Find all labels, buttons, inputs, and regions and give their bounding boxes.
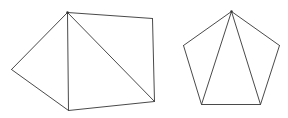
edge-top-bottom-left xyxy=(202,12,232,105)
edge-top-right xyxy=(232,12,280,46)
edge-left-top xyxy=(12,13,68,70)
edge-bottom-left xyxy=(12,70,69,111)
left-figure xyxy=(12,11,155,110)
edge-top-bottom-right xyxy=(68,13,155,102)
apex-vertex xyxy=(230,10,232,12)
edge-left-top xyxy=(184,12,232,46)
edge-top-top-right xyxy=(68,13,153,19)
edge-bottom-right-bottom xyxy=(69,102,155,111)
diagram-canvas xyxy=(0,0,288,118)
apex-vertex xyxy=(66,11,68,13)
right-pentagon xyxy=(184,10,280,104)
edge-right-bottom-right xyxy=(261,46,280,105)
edge-top-bottom-right xyxy=(232,12,261,105)
edge-bottom-left-left xyxy=(184,46,202,105)
edge-top-right-bottom-right xyxy=(153,19,155,102)
edge-top-bottom xyxy=(68,13,69,111)
